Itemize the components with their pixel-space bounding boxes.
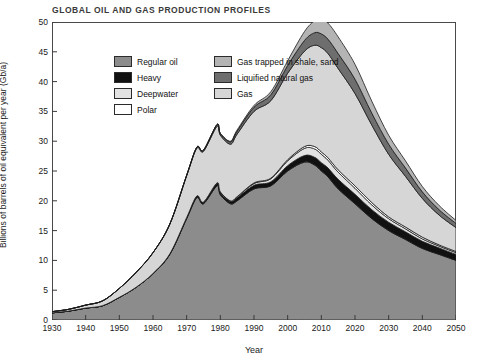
x-tick: 2030: [379, 323, 398, 333]
legend-swatch-icon: [114, 88, 132, 99]
legend-item-gas: Gas: [214, 86, 364, 101]
legend-swatch-icon: [214, 88, 232, 99]
y-tick: 30: [18, 136, 48, 146]
chart-legend: Regular oil Heavy Deepwater Polar Gas tr…: [114, 54, 364, 118]
x-tick: 1950: [110, 323, 129, 333]
x-tick: 2010: [312, 323, 331, 333]
legend-item-regular-oil: Regular oil: [114, 54, 214, 69]
x-tick: 1930: [43, 323, 62, 333]
x-tick: 2020: [346, 323, 365, 333]
legend-label: Gas trapped in shale, sand: [237, 57, 339, 67]
x-tick: 2000: [278, 323, 297, 333]
legend-item-gas-shale-sand: Gas trapped in shale, sand: [214, 54, 364, 69]
y-tick: 50: [18, 17, 48, 27]
y-tick: 10: [18, 255, 48, 265]
legend-label: Heavy: [137, 73, 161, 83]
y-axis-label: Billions of barrels of oil equivalent pe…: [0, 0, 8, 30]
legend-label: Gas: [237, 89, 253, 99]
y-tick: 5: [18, 285, 48, 295]
legend-label: Polar: [137, 105, 157, 115]
x-tick: 1940: [76, 323, 95, 333]
legend-item-lng: Liquified natural gas: [214, 70, 364, 85]
legend-swatch-icon: [214, 72, 232, 83]
y-tick: 25: [18, 166, 48, 176]
legend-label: Regular oil: [137, 57, 178, 67]
x-tick: 1980: [211, 323, 230, 333]
y-tick: 40: [18, 77, 48, 87]
y-tick: 15: [18, 226, 48, 236]
y-tick: 45: [18, 47, 48, 57]
legend-item-polar: Polar: [114, 102, 214, 117]
legend-item-heavy: Heavy: [114, 70, 214, 85]
legend-swatch-icon: [114, 104, 132, 115]
x-tick: 2040: [413, 323, 432, 333]
legend-swatch-icon: [214, 56, 232, 67]
plot-area: 0 5 10 15 20 25 30 35 40 45 50 1930 1940…: [52, 22, 456, 320]
y-tick: 20: [18, 196, 48, 206]
legend-label: Deepwater: [137, 89, 178, 99]
legend-label: Liquified natural gas: [237, 73, 313, 83]
x-axis-label: Year: [52, 345, 456, 355]
legend-item-deepwater: Deepwater: [114, 86, 214, 101]
legend-swatch-icon: [114, 56, 132, 67]
legend-swatch-icon: [114, 72, 132, 83]
x-tick: 2050: [447, 323, 466, 333]
x-tick: 1960: [144, 323, 163, 333]
chart-title: GLOBAL OIL AND GAS PRODUCTION PROFILES: [52, 5, 271, 15]
x-tick: 1990: [245, 323, 264, 333]
y-tick: 35: [18, 106, 48, 116]
x-tick: 1970: [177, 323, 196, 333]
